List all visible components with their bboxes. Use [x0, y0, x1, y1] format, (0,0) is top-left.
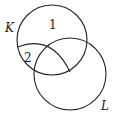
- venn-diagram: 1 2 K L: [0, 0, 113, 117]
- set-label-l: L: [100, 99, 109, 113]
- region-label-2: 2: [24, 51, 32, 65]
- region-label-1: 1: [49, 18, 57, 32]
- set-label-k: K: [4, 21, 15, 35]
